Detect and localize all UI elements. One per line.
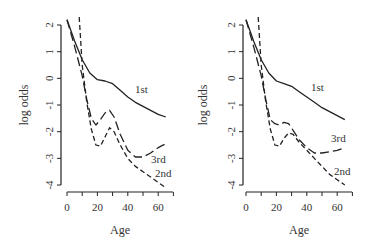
x-ticks: 0204060: [64, 192, 173, 213]
series-label-2nd: 2nd: [334, 165, 351, 177]
y-tick-label: -3: [225, 153, 237, 163]
x-tick-label: 60: [153, 201, 165, 213]
series-line-1st: [67, 20, 166, 117]
series-line-3rd: [67, 20, 166, 157]
y-tick-label: 2: [225, 22, 237, 28]
y-tick-label: 2: [43, 22, 55, 28]
series-label-1st: 1st: [135, 83, 148, 95]
y-tick-label: 1: [43, 49, 55, 55]
y-tick-label: -3: [43, 153, 55, 163]
series-label-1st: 1st: [311, 81, 324, 93]
y-tick-label: -2: [43, 127, 55, 136]
x-tick-label: 60: [332, 201, 344, 213]
x-tick-label: 0: [64, 201, 70, 213]
series-line-2nd: [258, 17, 345, 185]
x-tick-label: 40: [301, 201, 313, 213]
y-ticks: 210-1-2-3-4: [225, 22, 243, 189]
y-ticks: 210-1-2-3-4: [43, 22, 61, 189]
series-label-3rd: 3rd: [331, 132, 346, 144]
y-tick-label: 0: [43, 75, 55, 81]
series-line-1st: [246, 20, 345, 120]
x-axis-label: Age: [289, 223, 309, 237]
y-tick-label: 0: [225, 75, 237, 81]
x-tick-label: 40: [122, 201, 134, 213]
x-tick-label: 0: [243, 201, 249, 213]
y-tick-label: -4: [43, 180, 55, 190]
right-panel: log odds Age 210-1-2-3-4 0204060 1st 3rd…: [196, 17, 352, 237]
y-tick-label: -1: [225, 100, 237, 109]
series-label-3rd: 3rd: [151, 153, 166, 165]
y-tick-label: 1: [225, 49, 237, 55]
series-line-3rd: [246, 20, 345, 153]
x-tick-label: 20: [271, 201, 283, 213]
y-tick-label: -1: [43, 100, 55, 109]
left-panel: log odds Age 210-1-2-3-4 0204060 1st 3rd…: [17, 17, 173, 237]
y-tick-label: -2: [225, 127, 237, 136]
x-axis-label: Age: [110, 223, 130, 237]
x-tick-label: 20: [92, 201, 104, 213]
chart-canvas: log odds Age 210-1-2-3-4 0204060 1st 3rd…: [0, 0, 369, 249]
series-lines: [246, 17, 345, 185]
y-axis-label: log odds: [196, 84, 210, 125]
x-ticks: 0204060: [243, 192, 352, 213]
y-tick-label: -4: [225, 180, 237, 190]
series-label-2nd: 2nd: [155, 167, 172, 179]
y-axis-label: log odds: [17, 84, 31, 125]
